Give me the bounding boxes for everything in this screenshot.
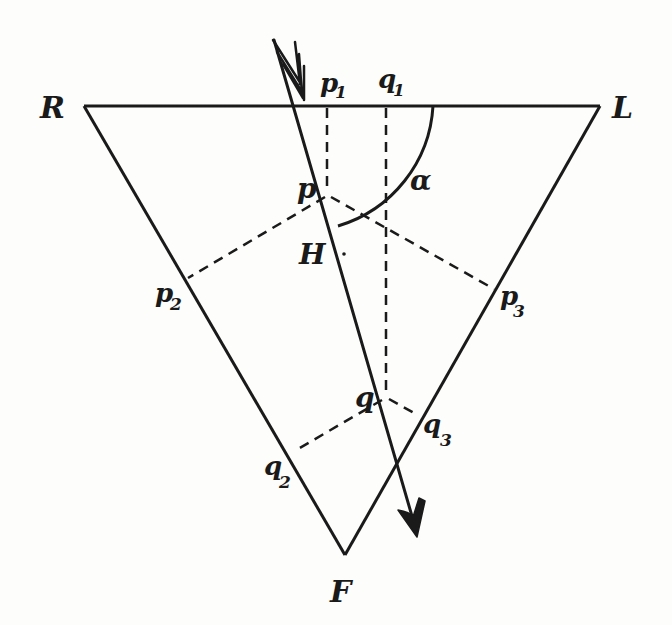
label-q3-sub: 3	[440, 430, 452, 450]
dashed-q-q3	[389, 399, 414, 413]
label-p: p	[297, 172, 317, 205]
label-q1-sub: 1	[393, 80, 405, 100]
label-q1: q 1	[378, 64, 405, 100]
label-q3-base: q	[423, 409, 441, 439]
label-p1-sub: 1	[335, 82, 347, 102]
prism-diagram: R L F p H q α p 1 q 1 p 2 p 3 q 2 q 3	[0, 0, 672, 625]
label-q: q	[355, 381, 375, 414]
label-p3-sub: 3	[513, 301, 525, 321]
label-p2: p 2	[155, 278, 182, 314]
label-r: R	[39, 90, 65, 125]
label-q2-sub: 2	[278, 472, 291, 492]
edge-lf	[345, 106, 600, 555]
construction-lines	[188, 108, 494, 449]
h-marker	[342, 252, 346, 256]
label-f: F	[329, 574, 354, 609]
label-q3: q 3	[423, 409, 452, 450]
light-ray	[273, 40, 416, 530]
ray-line	[274, 40, 416, 530]
label-p2-sub: 2	[169, 294, 182, 314]
triangle-rlf	[84, 106, 600, 555]
ray-arrowhead-icon	[398, 498, 425, 537]
label-h: H	[298, 238, 327, 271]
label-l: L	[611, 90, 633, 125]
label-alpha: α	[410, 164, 432, 197]
label-p3: p 3	[500, 281, 525, 321]
dashed-p-p3	[331, 197, 494, 289]
label-p1: p 1	[320, 68, 347, 102]
